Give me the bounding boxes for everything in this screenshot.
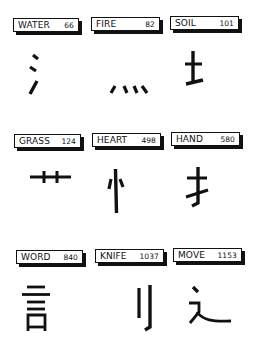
radical-glyphs xyxy=(0,0,265,350)
move-radical-icon xyxy=(189,287,231,323)
water-radical-icon xyxy=(30,55,38,94)
fire-radical-icon xyxy=(111,86,147,93)
heart-radical-icon xyxy=(109,169,123,213)
word-radical-icon xyxy=(22,287,50,331)
grass-radical-icon xyxy=(30,171,71,183)
soil-radical-icon xyxy=(185,51,203,84)
knife-radical-icon xyxy=(139,285,150,330)
hand-radical-icon xyxy=(186,167,208,206)
